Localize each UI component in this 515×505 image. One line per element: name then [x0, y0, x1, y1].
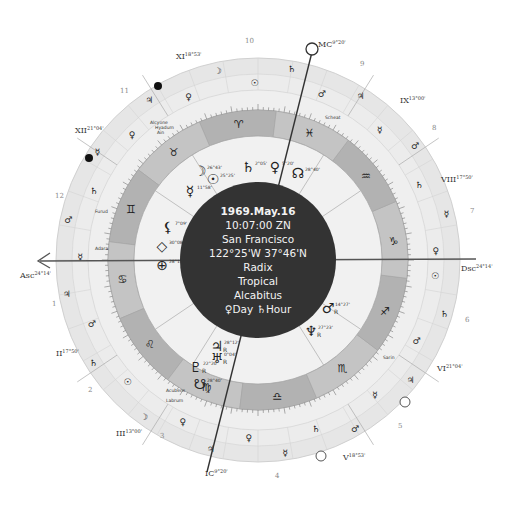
mc-marker-icon [306, 43, 318, 55]
house-number: 10 [245, 37, 254, 45]
house-cusp-label: VI21°04' [436, 363, 463, 373]
house-number: 6 [465, 316, 470, 324]
planet-glyph-icon: ☊ [292, 165, 304, 181]
dignity-glyph: ♂ [88, 319, 96, 329]
house-number: 3 [160, 432, 164, 440]
planet-degree: 28°40' [305, 167, 320, 172]
planet-glyph-icon: ☽ [194, 163, 207, 179]
dsc-label: Dsc24°14' [461, 263, 493, 273]
dignity-glyph: ♂ [318, 89, 326, 99]
chart-place: San Francisco [222, 232, 294, 246]
dignity-glyph: ♃ [407, 375, 415, 385]
fixed-star-label: Ain [157, 130, 164, 135]
zodiac-sign-glyph: ♉ [169, 146, 179, 159]
chart-time: 10:07:00 ZN [225, 218, 291, 232]
zodiac-sign-glyph: ♑ [389, 235, 399, 248]
fixed-star-label: Sarin [383, 355, 395, 360]
ic-label: IC9°20' [205, 468, 228, 478]
planet-glyph-icon: ☋ [194, 376, 206, 392]
dignity-glyph: ☿ [282, 448, 288, 458]
dignity-glyph: ☽ [214, 66, 222, 76]
chart-info: 1969.May.16 10:07:00 ZN San Francisco 12… [180, 184, 336, 336]
dignity-glyph: ☿ [443, 209, 449, 219]
zodiac-sign-glyph: ♏ [337, 362, 347, 375]
retrograde-marker: R [223, 358, 227, 365]
planet-degree: 22°20' [203, 361, 218, 366]
dignity-glyph: ♄ [312, 424, 320, 434]
planet-glyph-icon: ♇ [190, 359, 203, 375]
dignity-glyph: ♀ [185, 92, 192, 102]
house-cusp-label: XII21°04' [75, 125, 104, 135]
house-number: 1 [52, 300, 56, 308]
dignity-glyph: ☿ [377, 125, 383, 135]
house-number: 7 [470, 207, 474, 215]
dignity-glyph: ♂ [64, 215, 72, 225]
house-number: 9 [360, 60, 364, 68]
dignity-glyph: ☉ [251, 78, 259, 88]
dignity-glyph: ☿ [94, 147, 100, 157]
dignity-glyph: ♄ [288, 64, 296, 74]
house-number: 12 [55, 192, 64, 200]
house-cusp-label: II17°50' [56, 348, 79, 358]
dignity-glyph: ☿ [372, 390, 378, 400]
planet-glyph-icon: ♀ [270, 159, 280, 175]
fixed-star-label: Acubens [166, 388, 186, 393]
dignity-glyph: ♀ [432, 246, 439, 256]
dignity-glyph: ♄ [415, 180, 423, 190]
chart-coords: 122°25'W 37°46'N [209, 246, 307, 260]
house-number: 4 [275, 472, 280, 480]
dignity-glyph: ♂ [351, 424, 359, 434]
house-cusp-label: V18°53' [342, 452, 365, 462]
planet-glyph-icon: ♄ [242, 159, 255, 175]
marker-dot [154, 82, 162, 90]
chart-type: Radix [243, 260, 272, 274]
planet-glyph-icon: ⚸ [163, 219, 173, 235]
dignity-glyph: ♀ [129, 130, 136, 140]
dignity-glyph: ☽ [140, 412, 148, 422]
zodiac-sign-glyph: ♓ [304, 127, 314, 140]
planet-degree: 25°25' [220, 173, 235, 178]
planet-degree: 26°43' [207, 165, 222, 170]
dignity-glyph: ♃ [357, 91, 365, 101]
fixed-star-label: Adara [95, 246, 108, 251]
planet-degree: 28°40' [207, 378, 222, 383]
planet-glyph-icon: ◇ [157, 238, 168, 254]
dignity-glyph: ☉ [124, 377, 132, 387]
house-number: 8 [432, 124, 436, 132]
dignity-glyph: ♀ [245, 433, 252, 443]
dignity-glyph: ♂ [411, 141, 419, 151]
dignity-glyph: ♄ [89, 358, 97, 368]
dignity-glyph: ♄ [90, 186, 98, 196]
asc-label: Asc24°14' [19, 270, 51, 280]
marker-dot [85, 154, 93, 162]
house-number: 5 [398, 422, 402, 430]
dignity-glyph: ♂ [413, 336, 421, 346]
fixed-star-label: Labrum [166, 398, 183, 403]
dignity-glyph: ♃ [145, 95, 153, 105]
house-number: 11 [120, 87, 129, 95]
chart-house-system: Alcabitus [234, 288, 282, 302]
zodiac-sign-glyph: ♊ [126, 203, 136, 216]
house-cusp-label: VIII17°50' [440, 174, 473, 184]
chart-zodiac: Tropical [238, 274, 278, 288]
zodiac-sign-glyph: ♐ [380, 305, 390, 318]
zodiac-sign-glyph: ♒ [361, 170, 371, 183]
zodiac-sign-glyph: ♋ [117, 273, 127, 286]
zodiac-sign-glyph: ♎ [272, 390, 282, 403]
zodiac-sign-glyph: ♌ [145, 338, 155, 351]
dignity-glyph: ☉ [431, 271, 439, 281]
house-number: 2 [88, 386, 92, 394]
marker-ring [400, 397, 410, 407]
house-cusp-label: XI18°53' [176, 51, 201, 61]
planet-degree: 28°12' [224, 340, 239, 345]
mc-label: MC9°20' [318, 39, 346, 49]
planet-glyph-icon: ⊕ [156, 257, 168, 273]
chart-date: 1969.May.16 [221, 204, 296, 218]
planet-degree: 2°05' [255, 161, 267, 166]
fixed-star-label: Scheat [325, 115, 341, 120]
fixed-star-label: Furud [95, 209, 108, 214]
planet-degree: 14°27' [335, 302, 350, 307]
house-cusp-label: IX13°00' [400, 95, 425, 105]
dignity-glyph: ♀ [179, 417, 186, 427]
planet-degree: 0°04' [224, 352, 236, 357]
